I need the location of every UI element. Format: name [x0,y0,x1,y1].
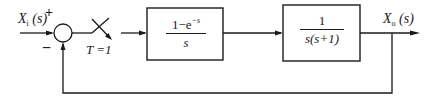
block1-input-arrowhead [139,31,147,36]
input-arrowhead [46,31,54,36]
minus-sign: − [42,40,51,56]
block-zoh-numerator: 1−e−s [166,14,206,33]
block2-input-arrowhead [275,31,283,36]
block-diagram [0,0,437,101]
block-plant-transfer-function: 1 s(s+1) [300,14,344,46]
sampling-period-label: T =1 [86,43,112,56]
sampler-switch-arm [92,18,109,33]
input-label: Xi (s) [18,12,47,28]
block-plant-denominator: s(s+1) [300,30,344,46]
output-arrowhead [410,31,420,36]
plus-sign: + [45,6,53,20]
feedback-arrowhead [61,42,66,50]
block-plant-numerator: 1 [300,14,344,29]
block-zoh-denominator: s [166,34,206,50]
summing-junction [54,24,72,42]
block-zoh-transfer-function: 1−e−s s [166,14,206,50]
output-label: Xo (s) [383,12,414,28]
